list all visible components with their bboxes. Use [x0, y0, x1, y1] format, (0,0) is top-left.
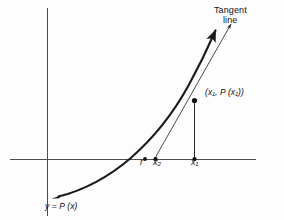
tangent-point-caption: (x₁, P (x₁)): [205, 88, 244, 98]
figure-container: Tangent line (x₁, P (x₁)) y = P (x) r x₂…: [0, 0, 284, 220]
newton-method-diagram: [0, 0, 284, 220]
x1-label: x₁: [191, 157, 199, 167]
root-point-marker: [143, 157, 147, 161]
tangent-line-caption-line1: Tangent: [214, 5, 247, 15]
tangent-line-caption: Tangent line: [214, 5, 247, 25]
curve-caption: y = P (x): [45, 202, 77, 212]
tangent-point-marker: [192, 98, 197, 103]
x2-label: x₂: [153, 157, 161, 167]
root-label: r: [140, 158, 143, 168]
tangent-line-caption-line2: line: [214, 15, 247, 25]
polynomial-curve: [59, 31, 216, 197]
